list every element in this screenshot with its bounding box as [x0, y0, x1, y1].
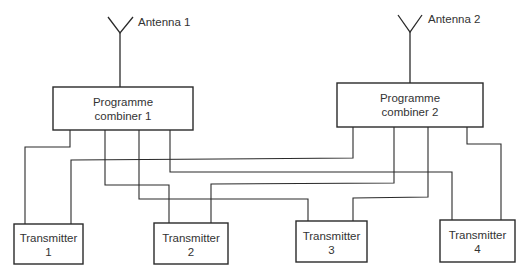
combiner-2: Programme combiner 2 [337, 83, 483, 127]
wire-combiner1-transmitter2 [105, 130, 169, 223]
antenna-2-icon [398, 15, 422, 32]
combiner-1-label-line2: combiner 1 [95, 110, 152, 122]
antenna-1-icon [108, 17, 133, 33]
transmitter-3: Transmitter 3 [296, 221, 367, 262]
transmitter-2-label-line2: 2 [188, 246, 194, 258]
antenna-1: Antenna 1 [108, 16, 190, 87]
transmitter-1: Transmitter 1 [14, 224, 83, 264]
combiner-1-box [53, 87, 193, 130]
transmitter-1-box [14, 224, 83, 264]
wire-combiner1-transmitter1 [25, 130, 70, 224]
antenna-2-label: Antenna 2 [428, 13, 480, 25]
transmitter-3-label-line2: 3 [328, 244, 334, 256]
antenna-2: Antenna 2 [398, 13, 480, 83]
wire-combiner1-transmitter3 [139, 130, 308, 221]
connection-wires [25, 127, 501, 224]
transmitter-4-label-line2: 4 [474, 243, 481, 255]
wire-combiner2-transmitter2 [211, 127, 394, 223]
transmitter-2-label-line1: Transmitter [162, 232, 220, 244]
combiner-1: Programme combiner 1 [53, 87, 193, 130]
transmitter-4-label-line1: Transmitter [449, 229, 507, 241]
combiner-2-label-line1: Programme [380, 92, 440, 104]
wire-combiner1-transmitter4 [170, 130, 452, 220]
combiner-2-label-line2: combiner 2 [382, 106, 439, 118]
transmitter-1-label-line2: 1 [45, 246, 51, 258]
transmitter-4: Transmitter 4 [440, 220, 515, 262]
wire-combiner2-transmitter4 [467, 127, 501, 220]
combiner-2-box [337, 83, 483, 127]
wire-combiner2-transmitter1 [71, 127, 353, 224]
transmitter-1-label-line1: Transmitter [20, 232, 78, 244]
transmitter-2: Transmitter 2 [154, 223, 228, 264]
transmitter-3-label-line1: Transmitter [303, 230, 361, 242]
combiner-1-label-line1: Programme [93, 96, 153, 108]
programme-combiner-diagram: Antenna 1 Antenna 2 Programme combiner 1… [0, 0, 527, 276]
wire-combiner2-transmitter3 [353, 127, 428, 221]
transmitter-4-box [440, 220, 515, 262]
antenna-1-label: Antenna 1 [138, 16, 190, 28]
